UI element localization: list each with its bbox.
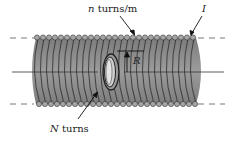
solenoid-diagram: [0, 0, 234, 149]
radius-label: R: [133, 55, 141, 66]
inner-turns-unit: turns: [59, 123, 89, 134]
turns-per-meter-unit: turns/m: [94, 3, 137, 14]
turns-per-meter-label: n turns/m: [88, 3, 137, 14]
inner-turns-label: N turns: [50, 123, 89, 134]
inner-coil: [103, 54, 119, 90]
inner-turns-variable: N: [50, 123, 59, 134]
current-label: I: [202, 3, 206, 14]
